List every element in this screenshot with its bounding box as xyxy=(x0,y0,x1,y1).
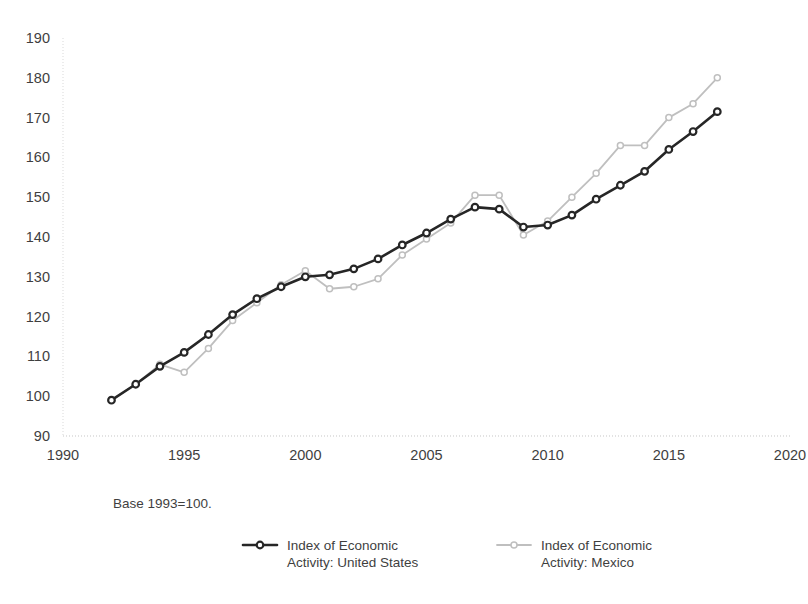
x-axis-tick-label: 2005 xyxy=(410,447,442,463)
data-point-marker xyxy=(520,232,526,238)
data-point-marker xyxy=(399,252,405,258)
y-axis: 90100110120130140150160170180190 xyxy=(26,30,50,444)
x-axis-tick-label: 1995 xyxy=(168,447,200,463)
legend-label-line1: Index of Economic xyxy=(541,538,652,553)
data-point-marker xyxy=(205,345,211,351)
data-point-marker xyxy=(641,168,648,175)
y-axis-tick-label: 120 xyxy=(26,309,50,325)
data-point-marker xyxy=(496,206,503,213)
data-point-marker xyxy=(569,212,576,219)
legend-item: Index of EconomicActivity: United States xyxy=(243,538,419,570)
data-point-marker xyxy=(666,146,673,153)
data-point-marker xyxy=(351,266,358,273)
chart-note: Base 1993=100. xyxy=(113,496,212,511)
data-point-marker xyxy=(132,381,139,388)
data-point-marker xyxy=(351,284,357,290)
data-point-marker xyxy=(302,274,309,281)
x-axis: 1990199520002005201020152020 xyxy=(47,447,806,463)
data-point-marker xyxy=(544,222,551,229)
chart-container: 90100110120130140150160170180190 1990199… xyxy=(0,0,808,604)
data-point-marker xyxy=(472,204,479,211)
legend-label-line2: Activity: United States xyxy=(287,555,419,570)
data-point-marker xyxy=(617,142,623,148)
y-axis-tick-label: 130 xyxy=(26,269,50,285)
data-point-marker xyxy=(181,349,188,356)
data-point-marker xyxy=(690,128,697,135)
data-point-marker xyxy=(496,192,502,198)
data-point-marker xyxy=(181,369,187,375)
data-point-marker xyxy=(569,194,575,200)
data-point-marker xyxy=(472,192,478,198)
y-axis-tick-label: 140 xyxy=(26,229,50,245)
x-axis-tick-label: 2010 xyxy=(532,447,564,463)
data-point-marker xyxy=(278,283,285,290)
x-axis-tick-label: 2000 xyxy=(289,447,321,463)
y-axis-tick-label: 100 xyxy=(26,388,50,404)
data-point-marker xyxy=(593,170,599,176)
y-axis-tick-label: 190 xyxy=(26,30,50,46)
note-text: Base 1993=100. xyxy=(113,496,212,511)
line-chart: 90100110120130140150160170180190 1990199… xyxy=(0,0,808,604)
x-axis-tick-label: 2015 xyxy=(653,447,685,463)
data-point-marker xyxy=(617,182,624,189)
data-point-marker xyxy=(229,311,236,318)
data-point-marker xyxy=(447,216,454,223)
data-point-marker xyxy=(326,272,333,279)
legend-label-line2: Activity: Mexico xyxy=(541,555,634,570)
data-point-marker xyxy=(327,286,333,292)
legend-item: Index of EconomicActivity: Mexico xyxy=(497,538,652,570)
chart-legend: Index of EconomicActivity: United States… xyxy=(243,538,652,570)
legend-label-line1: Index of Economic xyxy=(287,538,398,553)
data-point-marker xyxy=(690,101,696,107)
data-point-marker xyxy=(399,242,406,249)
data-point-marker xyxy=(375,256,382,263)
data-point-marker xyxy=(375,276,381,282)
data-point-marker xyxy=(714,108,721,115)
data-point-marker xyxy=(714,75,720,81)
data-point-marker xyxy=(205,331,212,338)
y-axis-tick-label: 90 xyxy=(34,428,50,444)
y-axis-tick-label: 180 xyxy=(26,70,50,86)
data-point-marker xyxy=(666,115,672,121)
legend-marker-swatch xyxy=(511,542,517,548)
data-point-marker xyxy=(157,363,164,370)
data-point-marker xyxy=(593,196,600,203)
data-point-marker xyxy=(108,397,115,404)
data-point-marker xyxy=(520,224,527,231)
x-axis-tick-label: 2020 xyxy=(774,447,806,463)
y-axis-tick-label: 150 xyxy=(26,189,50,205)
data-series xyxy=(108,75,720,404)
y-axis-tick-label: 170 xyxy=(26,110,50,126)
y-axis-tick-label: 110 xyxy=(27,348,50,364)
x-axis-tick-label: 1990 xyxy=(47,447,79,463)
legend-marker-swatch xyxy=(257,542,264,549)
data-point-marker xyxy=(254,295,261,302)
data-point-marker xyxy=(423,230,430,237)
data-point-marker xyxy=(642,142,648,148)
y-axis-tick-label: 160 xyxy=(26,149,50,165)
